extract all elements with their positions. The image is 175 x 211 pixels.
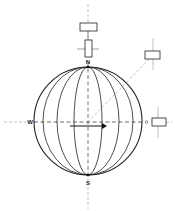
north-pole-dot: [87, 66, 89, 68]
globe-diagram: N S W O: [0, 0, 175, 211]
south-pole-dot: [87, 174, 89, 176]
upper-right-box: [145, 51, 160, 59]
eastward-arrow-head: [102, 123, 107, 129]
south-label: S: [86, 180, 90, 186]
top-vertical-box: [85, 40, 92, 57]
diagonal-axis-dashed: [88, 55, 153, 122]
east-point-marker: [145, 121, 148, 124]
top-horizontal-box: [80, 23, 97, 31]
west-label: W: [27, 119, 33, 125]
north-label: N: [86, 59, 90, 65]
right-box: [152, 118, 166, 126]
